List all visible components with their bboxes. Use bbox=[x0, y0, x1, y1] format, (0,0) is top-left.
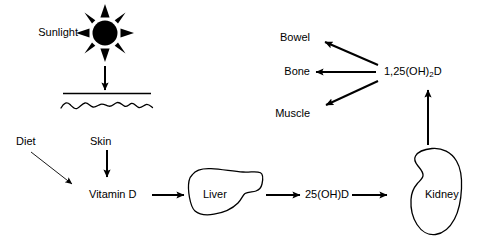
label-bone: Bone bbox=[258, 66, 310, 77]
sun-icon bbox=[76, 4, 134, 62]
label-vitamin-d: Vitamin D bbox=[89, 189, 136, 200]
label-kidney: Kidney bbox=[425, 189, 459, 200]
label-25ohd: 25(OH)D bbox=[305, 189, 349, 200]
label-liver: Liver bbox=[203, 189, 227, 200]
arrow-diet-to-vitamin-d bbox=[31, 152, 72, 184]
arrow-calcitriol-to-bowel bbox=[325, 42, 378, 65]
vitamin-d-pathway-diagram: Sunlight Diet Skin Vitamin D Liver 25(OH… bbox=[0, 0, 489, 245]
label-calcitriol: 1,25(OH)2D bbox=[384, 66, 442, 79]
arrow-calcitriol-to-muscle bbox=[326, 81, 378, 105]
wavy-skin-line bbox=[61, 102, 153, 108]
label-sunlight: Sunlight bbox=[28, 27, 78, 38]
label-diet: Diet bbox=[16, 136, 36, 147]
label-muscle: Muscle bbox=[258, 108, 310, 119]
calcitriol-prefix: 1,25(OH) bbox=[384, 65, 429, 77]
label-bowel: Bowel bbox=[258, 32, 310, 43]
label-skin: Skin bbox=[90, 136, 111, 147]
calcitriol-suffix: D bbox=[434, 65, 442, 77]
